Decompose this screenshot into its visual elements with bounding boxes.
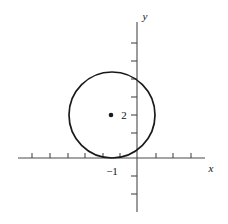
coordinate-plane-figure: x y −1 2 [0, 0, 228, 224]
graph-canvas: x y −1 2 [0, 0, 228, 224]
circle-center-dot [109, 113, 114, 118]
y-axis-ticks [131, 43, 137, 194]
x-axis-label: x [208, 162, 214, 174]
x-tick-label-neg-one: −1 [106, 165, 118, 177]
center-point-label-two: 2 [121, 109, 127, 121]
y-axis-label: y [142, 10, 148, 22]
